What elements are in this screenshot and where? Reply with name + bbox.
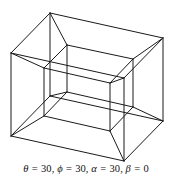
- caption-equals: =: [63, 163, 75, 174]
- caption-value: 30: [75, 163, 86, 174]
- caption-value: 30: [41, 163, 52, 174]
- caption-value: 0: [143, 163, 148, 174]
- caption-equals: =: [131, 163, 143, 174]
- tesseract-wireframe: [0, 0, 172, 163]
- caption-value: 30: [109, 163, 120, 174]
- caption-equals: =: [28, 163, 40, 174]
- caption-symbol: ϕ: [57, 163, 63, 174]
- caption-equals: =: [97, 163, 109, 174]
- figure-caption: θ = 30, ϕ = 30, α = 30, β = 0: [0, 162, 172, 176]
- figure-container: θ = 30, ϕ = 30, α = 30, β = 0: [0, 0, 172, 184]
